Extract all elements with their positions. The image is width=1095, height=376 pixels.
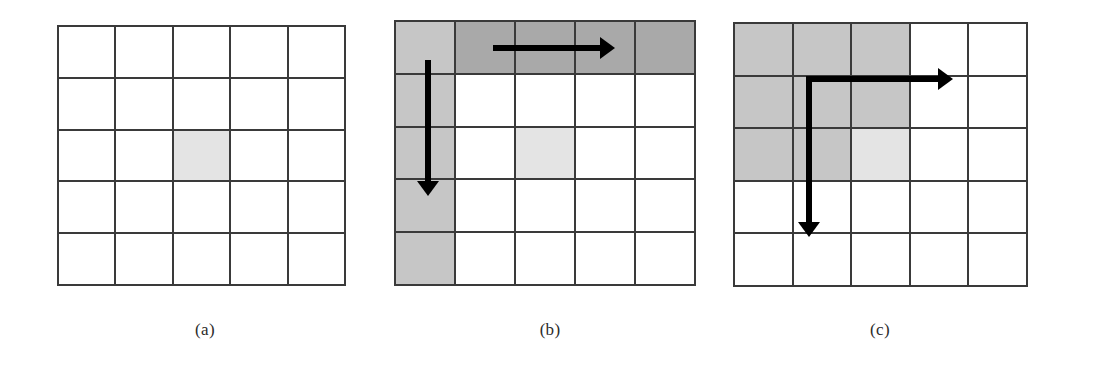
grid-cell-r5-c2 bbox=[116, 234, 171, 284]
grid-cell-r1-c4 bbox=[576, 22, 634, 73]
grid-cell-r5-c1 bbox=[735, 234, 792, 285]
panel-a bbox=[57, 25, 346, 286]
grid-cell-r3-c5 bbox=[636, 128, 694, 179]
panel-label-b: (b) bbox=[490, 320, 610, 340]
grid-cell-r2-c5 bbox=[969, 77, 1026, 128]
grid-cell-r5-c3 bbox=[516, 233, 574, 284]
grid-cell-r2-c3 bbox=[516, 75, 574, 126]
grid-cell-r1-c2 bbox=[456, 22, 514, 73]
grid-cell-r5-c4 bbox=[911, 234, 968, 285]
grid-cell-r1-c4 bbox=[231, 27, 286, 77]
grid-cell-r3-c5 bbox=[289, 131, 344, 181]
grid-cell-r1-c1 bbox=[396, 22, 454, 73]
grid-cell-r5-c2 bbox=[456, 233, 514, 284]
grid-cell-r3-c1 bbox=[396, 128, 454, 179]
grid-cell-r3-c1 bbox=[735, 129, 792, 180]
grid-cell-r3-c2 bbox=[116, 131, 171, 181]
grid-cell-r4-c1 bbox=[735, 182, 792, 233]
grid-cell-r5-c5 bbox=[969, 234, 1026, 285]
grid-a bbox=[57, 25, 346, 286]
grid-cell-r1-c1 bbox=[735, 24, 792, 75]
grid-cell-r4-c5 bbox=[636, 180, 694, 231]
grid-cell-r1-c5 bbox=[289, 27, 344, 77]
grid-cell-r3-c5 bbox=[969, 129, 1026, 180]
grid-cell-r5-c5 bbox=[636, 233, 694, 284]
grid-cell-r4-c3 bbox=[516, 180, 574, 231]
grid-cell-r1-c5 bbox=[636, 22, 694, 73]
grid-cell-r2-c4 bbox=[576, 75, 634, 126]
grid-cell-r2-c2 bbox=[116, 79, 171, 129]
grid-cell-r4-c3 bbox=[852, 182, 909, 233]
grid-cell-r5-c4 bbox=[576, 233, 634, 284]
grid-cell-r4-c5 bbox=[969, 182, 1026, 233]
grid-cell-r5-c3 bbox=[852, 234, 909, 285]
panel-label-a: (a) bbox=[145, 320, 265, 340]
grid-cell-r3-c3 bbox=[516, 128, 574, 179]
grid-cell-r3-c3 bbox=[174, 131, 229, 181]
grid-cell-r3-c2 bbox=[456, 128, 514, 179]
grid-cell-r5-c2 bbox=[794, 234, 851, 285]
grid-cell-r3-c4 bbox=[911, 129, 968, 180]
grid-cell-r4-c2 bbox=[456, 180, 514, 231]
grid-cell-r4-c3 bbox=[174, 182, 229, 232]
grid-cell-r5-c1 bbox=[59, 234, 114, 284]
grid-cell-r2-c1 bbox=[735, 77, 792, 128]
grid-c bbox=[733, 22, 1028, 287]
grid-cell-r2-c5 bbox=[636, 75, 694, 126]
grid-cell-r4-c5 bbox=[289, 182, 344, 232]
grid-cell-r1-c3 bbox=[174, 27, 229, 77]
grid-cell-r2-c4 bbox=[231, 79, 286, 129]
grid-cell-r3-c2 bbox=[794, 129, 851, 180]
grid-cell-r2-c1 bbox=[59, 79, 114, 129]
grid-cell-r1-c5 bbox=[969, 24, 1026, 75]
grid-cell-r4-c1 bbox=[59, 182, 114, 232]
grid-cell-r1-c2 bbox=[794, 24, 851, 75]
grid-cell-r5-c4 bbox=[231, 234, 286, 284]
panel-b bbox=[394, 20, 696, 286]
grid-cell-r2-c5 bbox=[289, 79, 344, 129]
grid-cell-r1-c3 bbox=[516, 22, 574, 73]
grid-cell-r4-c4 bbox=[576, 180, 634, 231]
grid-cell-r4-c1 bbox=[396, 180, 454, 231]
grid-cell-r3-c4 bbox=[231, 131, 286, 181]
panel-label-c: (c) bbox=[820, 320, 940, 340]
grid-cell-r3-c3 bbox=[852, 129, 909, 180]
figure-root: (a) (b) (c) bbox=[0, 0, 1095, 376]
grid-cell-r3-c1 bbox=[59, 131, 114, 181]
grid-cell-r1-c4 bbox=[911, 24, 968, 75]
grid-cell-r5-c1 bbox=[396, 233, 454, 284]
grid-cell-r2-c2 bbox=[456, 75, 514, 126]
grid-cell-r1-c3 bbox=[852, 24, 909, 75]
grid-cell-r3-c4 bbox=[576, 128, 634, 179]
grid-b bbox=[394, 20, 696, 286]
grid-cell-r2-c3 bbox=[174, 79, 229, 129]
panel-c bbox=[733, 22, 1028, 287]
grid-cell-r2-c1 bbox=[396, 75, 454, 126]
grid-cell-r4-c4 bbox=[231, 182, 286, 232]
grid-cell-r2-c4 bbox=[911, 77, 968, 128]
grid-cell-r4-c2 bbox=[794, 182, 851, 233]
grid-cell-r4-c4 bbox=[911, 182, 968, 233]
grid-cell-r2-c3 bbox=[852, 77, 909, 128]
grid-cell-r4-c2 bbox=[116, 182, 171, 232]
grid-cell-r5-c3 bbox=[174, 234, 229, 284]
grid-cell-r2-c2 bbox=[794, 77, 851, 128]
grid-cell-r1-c2 bbox=[116, 27, 171, 77]
grid-cell-r5-c5 bbox=[289, 234, 344, 284]
grid-cell-r1-c1 bbox=[59, 27, 114, 77]
